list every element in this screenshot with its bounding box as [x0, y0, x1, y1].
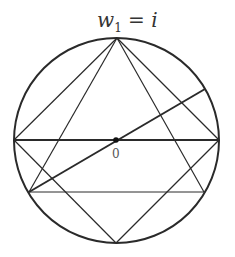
- origin-label: 0: [112, 147, 120, 161]
- top-point-label: w1 = i: [97, 8, 158, 35]
- unit-disk-diagram: [0, 0, 235, 257]
- chord-top-left: [14, 38, 117, 140]
- origin-point: [113, 137, 119, 143]
